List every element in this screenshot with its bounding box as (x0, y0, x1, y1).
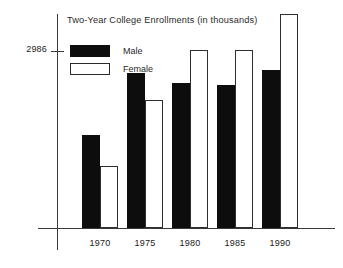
y-axis-tick-label: 2986 (26, 44, 47, 54)
bar-male-1980 (172, 83, 190, 228)
x-axis-label-1990: 1990 (260, 238, 300, 248)
bar-female-1970 (100, 166, 118, 228)
x-axis-label-1980: 1980 (170, 238, 210, 248)
bar-chart: Two-Year College Enrollments (in thousan… (0, 0, 343, 268)
plot-area (57, 14, 335, 228)
x-axis-label-1975: 1975 (125, 238, 165, 248)
bar-female-1980 (190, 50, 208, 228)
x-axis-label-1985: 1985 (215, 238, 255, 248)
bar-male-1985 (217, 85, 235, 228)
bar-male-1970 (82, 135, 100, 228)
x-axis-line (38, 228, 335, 229)
bar-male-1990 (262, 70, 280, 228)
bar-female-1985 (235, 50, 253, 228)
bar-female-1990 (280, 14, 298, 228)
bar-male-1975 (127, 73, 145, 228)
bar-female-1975 (145, 100, 163, 228)
x-axis-label-1970: 1970 (80, 238, 120, 248)
